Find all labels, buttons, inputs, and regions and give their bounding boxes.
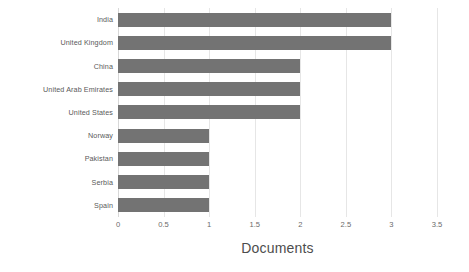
x-axis-tick-label: 1 [207, 220, 211, 229]
y-axis-label: Serbia [0, 171, 113, 194]
y-axis-label: United Arab Emirates [0, 78, 113, 101]
bar-row[interactable] [118, 78, 437, 101]
gridline-3.5 [437, 8, 438, 217]
bar-row[interactable] [118, 147, 437, 170]
y-axis-label: Spain [0, 194, 113, 217]
x-axis-tick-label: 0.5 [158, 220, 169, 229]
y-axis-label: China [0, 54, 113, 77]
x-axis-tick-label: 3.5 [432, 220, 443, 229]
x-axis-tick-label: 2 [298, 220, 302, 229]
bar-row[interactable] [118, 54, 437, 77]
y-axis-label: United Kingdom [0, 31, 113, 54]
y-axis-label: Pakistan [0, 147, 113, 170]
x-axis-tick-label: 3 [389, 220, 393, 229]
y-axis-label: India [0, 8, 113, 31]
bar-row[interactable] [118, 101, 437, 124]
bar[interactable] [118, 198, 209, 212]
bar[interactable] [118, 59, 300, 73]
x-axis-tick-labels: 00.511.522.533.5 [118, 220, 437, 234]
bar[interactable] [118, 105, 300, 119]
x-axis-tick-label: 0 [116, 220, 120, 229]
bar[interactable] [118, 129, 209, 143]
bar-row[interactable] [118, 194, 437, 217]
y-axis-category-labels: IndiaUnited KingdomChinaUnited Arab Emir… [0, 8, 113, 217]
plot-area [118, 8, 437, 217]
bar-row[interactable] [118, 171, 437, 194]
bar-row[interactable] [118, 124, 437, 147]
bar-row[interactable] [118, 31, 437, 54]
bar[interactable] [118, 82, 300, 96]
bar[interactable] [118, 13, 391, 27]
bar[interactable] [118, 152, 209, 166]
x-axis-title: Documents [118, 240, 437, 256]
y-axis-label: Norway [0, 124, 113, 147]
x-axis-tick-label: 2.5 [341, 220, 352, 229]
bar[interactable] [118, 175, 209, 189]
bar-chart: IndiaUnited KingdomChinaUnited Arab Emir… [0, 0, 469, 272]
bar[interactable] [118, 36, 391, 50]
bar-row[interactable] [118, 8, 437, 31]
bars-container [118, 8, 437, 217]
y-axis-label: United States [0, 101, 113, 124]
x-axis-tick-label: 1.5 [249, 220, 260, 229]
